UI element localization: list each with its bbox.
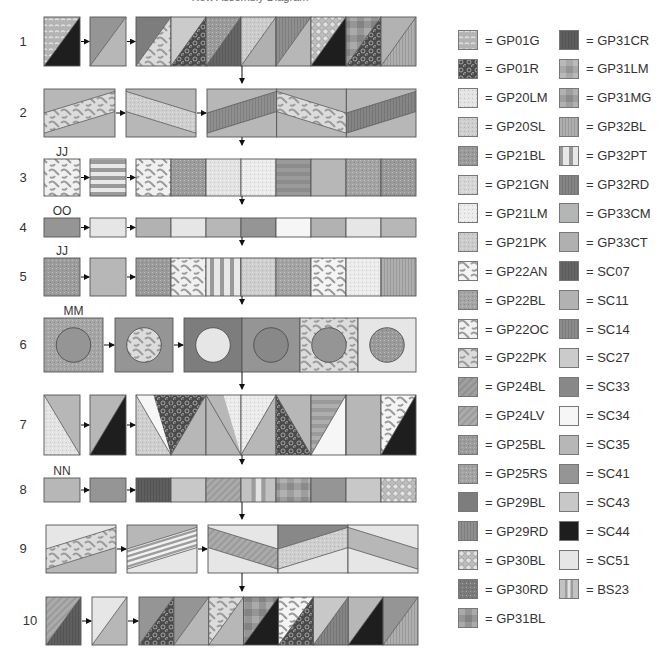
fabric-swatch-icon [559,492,579,512]
legend-label: = GP24LV [485,408,544,423]
unit-block [44,395,80,455]
row-number: 6 [8,337,38,352]
legend-label: = GP01R [485,61,539,76]
fabric-swatch-icon [458,608,478,628]
legend-label: = SC41 [586,466,630,481]
legend-item-gp01g: = GP01G [458,30,540,50]
fabric-swatch-icon [559,30,579,50]
legend-item-sc44: = SC44 [559,521,630,541]
strip-block [206,17,241,66]
pair-block [127,525,197,573]
assembled-strip [207,89,416,137]
fabric-swatch-icon [458,550,478,570]
row-number: 5 [8,269,38,284]
strip-block [276,218,311,237]
row-number: 7 [8,417,38,432]
legend-label: = GP29RD [485,524,548,539]
legend-item-gp29rd: = GP29RD [458,521,548,541]
strip-block [206,478,241,502]
assembled-strip [184,318,416,372]
strip-block [346,395,381,455]
legend-label: = SC44 [586,524,630,539]
legend-label: = GP22AN [485,264,548,279]
strip-block [208,525,278,573]
strip-block [311,395,346,455]
strip-block [171,258,206,296]
strip-block [276,258,311,296]
strip-block [278,525,348,573]
rows-layer [44,17,418,645]
strip-block [311,17,346,66]
fabric-swatch-icon [458,492,478,512]
legend-item-gp33cm: = GP33CM [559,203,651,223]
fabric-swatch-icon [458,406,478,426]
legend-item-gp21lm: = GP21LM [458,203,548,223]
legend-item-gp21bl: = GP21BL [458,146,545,166]
legend-label: = GP32PT [586,148,647,163]
legend-item-gp31cr: = GP31CR [559,30,649,50]
strip-block [381,218,416,237]
legend-label: = SC34 [586,408,630,423]
unit-block [44,258,80,296]
strip-block [136,395,171,455]
fabric-swatch-icon [458,290,478,310]
legend-label: = SC43 [586,495,630,510]
legend-item-gp32pt: = GP32PT [559,146,647,166]
strip-block [241,258,276,296]
fabric-swatch-icon [559,435,579,455]
legend-label: = SC35 [586,437,630,452]
assembled-strip [136,258,416,296]
strip-block [171,218,206,237]
strip-block [244,597,279,645]
legend-item-gp30bl: = GP30BL [458,550,545,570]
fabric-swatch-icon [559,59,579,79]
strip-block [346,89,416,137]
unit-block [44,17,80,66]
strip-block [174,597,209,645]
legend-label: = GP29BL [485,495,545,510]
unit-label: JJ [42,244,82,258]
pair-block [126,89,196,137]
fabric-swatch-icon [559,146,579,166]
strip-block [313,597,348,645]
strip-block [171,17,206,66]
strip-block [241,17,276,66]
fabric-swatch-icon [458,30,478,50]
legend-item-gp22pk: = GP22PK [458,348,547,368]
strip-block [358,318,416,372]
strip-block [381,17,416,66]
strip-block [206,258,241,296]
fabric-swatch-icon [559,464,579,484]
strip-block [136,159,171,196]
strip-block [242,318,300,372]
strip-block [346,478,381,502]
assembled-strip [208,525,418,573]
legend-item-gp24lv: = GP24LV [458,406,544,426]
legend-label: = GP21BL [485,148,545,163]
assembled-strip [136,17,416,66]
row-3 [44,159,416,204]
strip-block [207,89,277,137]
strip-block [171,478,206,502]
legend-label: = BS23 [586,582,629,597]
strip-block [139,597,174,645]
legend-item-gp01r: = GP01R [458,59,539,79]
fabric-swatch-icon [458,435,478,455]
legend-item-gp31lm: = GP31LM [559,59,649,79]
legend-item-sc11: = SC11 [559,290,629,310]
fabric-swatch-icon [458,464,478,484]
legend-item-gp22bl: = GP22BL [458,290,545,310]
row-5 [44,258,416,304]
legend-label: = SC33 [586,379,630,394]
strip-block [346,17,381,66]
legend-label: = SC27 [586,350,630,365]
strip-block [346,159,381,196]
strip-block [184,318,242,372]
strip-block [136,478,171,502]
legend-label: = GP22BL [485,293,545,308]
fabric-swatch-icon [458,203,478,223]
strip-block [346,258,381,296]
unit-block [46,597,81,645]
assembled-strip [136,159,416,196]
fabric-swatch-icon [559,261,579,281]
